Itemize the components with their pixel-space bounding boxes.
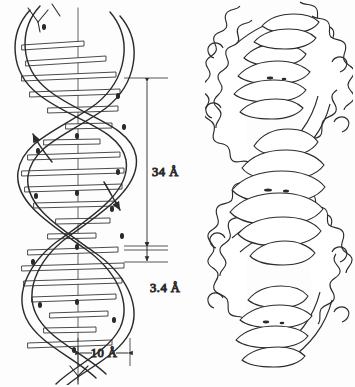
rise-label: 3.4 Å (150, 281, 180, 295)
dna-figure: 34 Å 3.4 Å 10 Å (0, 0, 355, 387)
diameter-label: 10 Å (91, 346, 118, 360)
dna-figure-canvas: 34 Å 3.4 Å 10 Å (0, 0, 355, 387)
pitch-label: 34 Å (152, 165, 179, 179)
